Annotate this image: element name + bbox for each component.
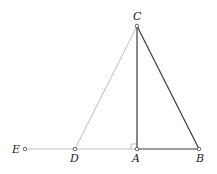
label-a: A (131, 152, 140, 165)
point-b (197, 147, 201, 151)
label-b: B (195, 152, 204, 165)
label-d: D (69, 152, 79, 165)
point-d (73, 147, 77, 151)
segment-cd (75, 26, 137, 149)
point-c (135, 24, 139, 28)
label-e: E (11, 143, 20, 156)
label-c: C (133, 10, 142, 23)
point-a (135, 147, 139, 151)
geometry-diagram: C E D A B (0, 0, 217, 174)
point-e (23, 147, 27, 151)
segment-cb (137, 26, 199, 149)
